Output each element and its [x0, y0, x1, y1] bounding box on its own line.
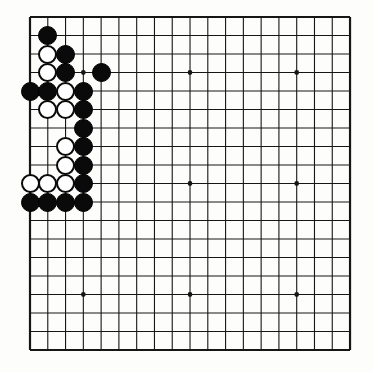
star-point-icon: [188, 181, 193, 186]
black-stone[interactable]: [38, 82, 57, 101]
white-stone[interactable]: [56, 137, 75, 156]
black-stone[interactable]: [74, 100, 93, 119]
black-stone[interactable]: [74, 137, 93, 156]
black-stone[interactable]: [74, 82, 93, 101]
black-stone[interactable]: [56, 193, 75, 212]
star-point-icon: [188, 292, 193, 297]
white-stone[interactable]: [56, 100, 75, 119]
white-stone[interactable]: [56, 82, 75, 101]
black-stone[interactable]: [21, 82, 40, 101]
star-point-icon: [188, 70, 193, 75]
white-stone[interactable]: [56, 156, 75, 175]
black-stone[interactable]: [74, 193, 93, 212]
star-point-icon: [81, 70, 86, 75]
star-point-icon: [81, 292, 86, 297]
black-stone[interactable]: [92, 63, 111, 82]
black-stone[interactable]: [74, 156, 93, 175]
black-stone[interactable]: [56, 63, 75, 82]
white-stone[interactable]: [56, 174, 75, 193]
black-stone[interactable]: [21, 193, 40, 212]
black-stone[interactable]: [38, 193, 57, 212]
white-stone[interactable]: [38, 45, 57, 64]
black-stone[interactable]: [74, 119, 93, 138]
go-board[interactable]: [0, 0, 373, 372]
star-point-icon: [294, 292, 299, 297]
black-stone[interactable]: [56, 45, 75, 64]
white-stone[interactable]: [21, 174, 40, 193]
star-point-icon: [294, 181, 299, 186]
star-point-icon: [294, 70, 299, 75]
black-stone[interactable]: [74, 174, 93, 193]
